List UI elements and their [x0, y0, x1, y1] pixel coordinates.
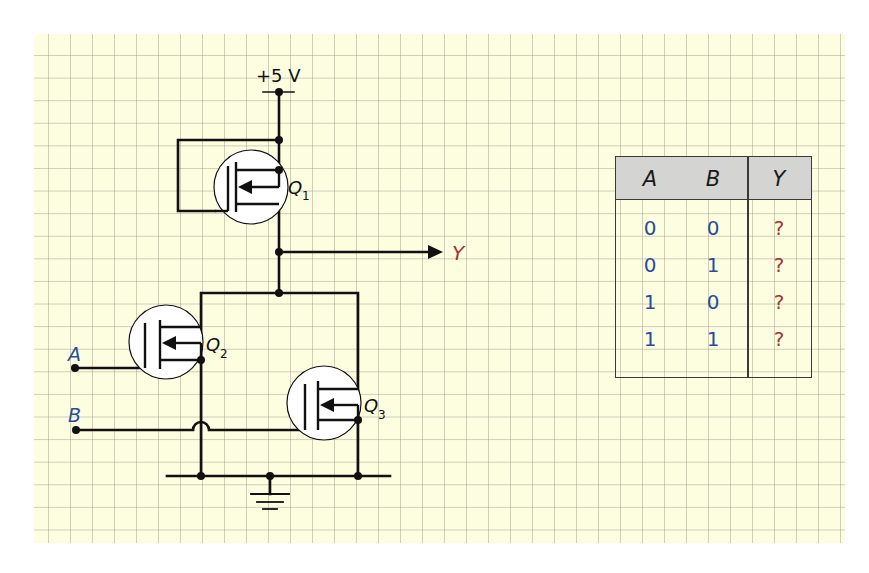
q3-label: Q 3: [364, 395, 386, 422]
header-b: B: [693, 167, 733, 191]
row-3-a: 1: [630, 290, 670, 314]
truth-table: A B Y 0 0 ? 0 1 ? 1 0 ? 1 1 ?: [615, 156, 812, 378]
truth-table-divider: [747, 157, 749, 377]
output-label: Y: [452, 241, 466, 265]
row-4-a: 1: [630, 327, 670, 351]
svg-text:2: 2: [220, 347, 228, 361]
supply-label: +5 V: [256, 65, 301, 86]
svg-text:3: 3: [378, 408, 386, 422]
input-b-wire: [76, 422, 305, 430]
row-2-a: 0: [630, 253, 670, 277]
q2-label: Q 2: [206, 334, 228, 361]
row-2-b: 1: [693, 253, 733, 277]
header-y: Y: [759, 167, 799, 191]
row-4-b: 1: [693, 327, 733, 351]
row-2-y: ?: [759, 253, 799, 277]
row-4-y: ?: [759, 327, 799, 351]
q1-label: Q 1: [288, 177, 310, 203]
transistor-q3: [287, 366, 361, 440]
header-a: A: [630, 167, 670, 191]
output-arrow-icon: [428, 245, 443, 259]
input-b-label: B: [68, 404, 81, 426]
svg-text:Q: Q: [364, 395, 378, 416]
row-1-a: 0: [630, 216, 670, 240]
transistor-q2: [129, 305, 203, 379]
svg-text:Q: Q: [206, 334, 220, 355]
row-3-b: 0: [693, 290, 733, 314]
svg-text:Q: Q: [288, 177, 302, 198]
row-1-b: 0: [693, 216, 733, 240]
transistor-q1: [214, 150, 288, 224]
row-1-y: ?: [759, 216, 799, 240]
row-3-y: ?: [759, 290, 799, 314]
input-a-label: A: [66, 343, 81, 365]
svg-text:1: 1: [302, 189, 310, 203]
